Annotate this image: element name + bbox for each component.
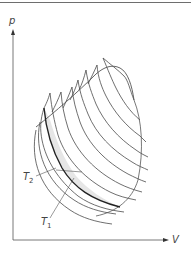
x-axis-arrow-icon: [163, 238, 169, 242]
branch-3: [44, 93, 50, 108]
t2-label: T2: [23, 172, 34, 186]
branch-4: [52, 92, 61, 112]
y-axis-arrow-icon: [11, 29, 15, 35]
isotherm-8: [97, 65, 146, 142]
x-axis-label: V: [172, 235, 179, 245]
isotherm-9: [103, 58, 140, 120]
pv-diagram: [0, 0, 191, 258]
isotherm-t2: [41, 108, 124, 212]
t1-label: T1: [41, 217, 52, 231]
isotherm-10: [103, 58, 134, 100]
isotherm-6: [78, 80, 148, 170]
y-axis-label: p: [9, 16, 15, 26]
